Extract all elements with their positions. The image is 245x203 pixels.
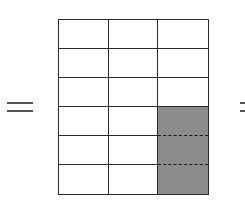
equals-bar-top <box>240 102 245 104</box>
equals-bar-top <box>7 102 33 104</box>
grid-cell <box>158 20 208 49</box>
grid-cell-shaded <box>158 107 208 136</box>
grid-cell <box>59 107 109 136</box>
equals-sign-left <box>7 102 33 113</box>
grid-cell <box>109 136 159 165</box>
grid-cell <box>158 49 208 78</box>
grid-cell-shaded <box>158 136 208 165</box>
grid-cell <box>158 78 208 107</box>
grid-cell <box>109 78 159 107</box>
equals-bar-bottom <box>7 110 33 112</box>
fraction-grid <box>58 19 209 195</box>
grid-cell <box>59 78 109 107</box>
grid-cell <box>59 20 109 49</box>
grid-cell <box>109 49 159 78</box>
grid-cell <box>109 107 159 136</box>
grid-cell <box>59 165 109 194</box>
grid-cell <box>59 136 109 165</box>
equals-sign-right <box>240 102 245 113</box>
grid-cell-shaded <box>158 165 208 194</box>
equals-bar-bottom <box>240 110 245 112</box>
grid-cell <box>109 20 159 49</box>
grid-cell <box>109 165 159 194</box>
grid-cell <box>59 49 109 78</box>
